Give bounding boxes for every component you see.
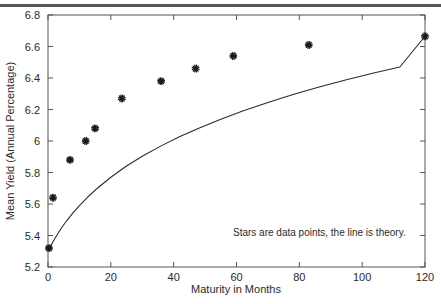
x-tick-label: 120 — [416, 271, 434, 283]
y-axis-title: Mean Yield (Annual Percentage) — [4, 62, 16, 220]
y-tick-label: 5.2 — [25, 261, 40, 273]
y-tick-label: 6.8 — [25, 9, 40, 21]
x-tick-label: 0 — [45, 271, 51, 283]
data-point-marker — [230, 53, 237, 60]
chart-figure: 5.25.45.65.866.26.46.66.8 02040608010012… — [0, 0, 441, 304]
yield-curve-chart: 5.25.45.65.866.26.46.66.8 02040608010012… — [0, 0, 441, 304]
x-axis-title: Maturity in Months — [191, 283, 281, 295]
data-point-marker — [67, 157, 74, 164]
y-tick-label: 6.2 — [25, 104, 40, 116]
scan-artifact-bar — [0, 4, 441, 7]
y-tick-label: 5.6 — [25, 198, 40, 210]
x-tick-label: 100 — [353, 271, 371, 283]
data-point-marker — [50, 194, 57, 201]
data-point-marker — [305, 42, 312, 49]
data-point-marker — [158, 78, 165, 85]
data-point-marker — [92, 125, 99, 132]
x-tick-label: 60 — [230, 271, 242, 283]
x-tick-label: 20 — [105, 271, 117, 283]
data-point-marker — [119, 95, 126, 102]
data-point-marker — [82, 138, 89, 145]
x-tick-label: 80 — [293, 271, 305, 283]
data-point-marker — [46, 245, 53, 252]
data-point-marker — [422, 33, 429, 40]
y-tick-label: 6.6 — [25, 41, 40, 53]
x-tick-label: 40 — [168, 271, 180, 283]
y-tick-label: 5.8 — [25, 167, 40, 179]
y-tick-label: 6 — [34, 135, 40, 147]
y-tick-label: 5.4 — [25, 230, 40, 242]
x-axis-tick-labels: 020406080100120 — [45, 271, 434, 283]
chart-annotation: Stars are data points, the line is theor… — [233, 227, 406, 238]
y-axis-tick-labels: 5.25.45.65.866.26.46.66.8 — [25, 9, 40, 273]
data-point-marker — [192, 65, 199, 72]
y-tick-label: 6.4 — [25, 72, 40, 84]
